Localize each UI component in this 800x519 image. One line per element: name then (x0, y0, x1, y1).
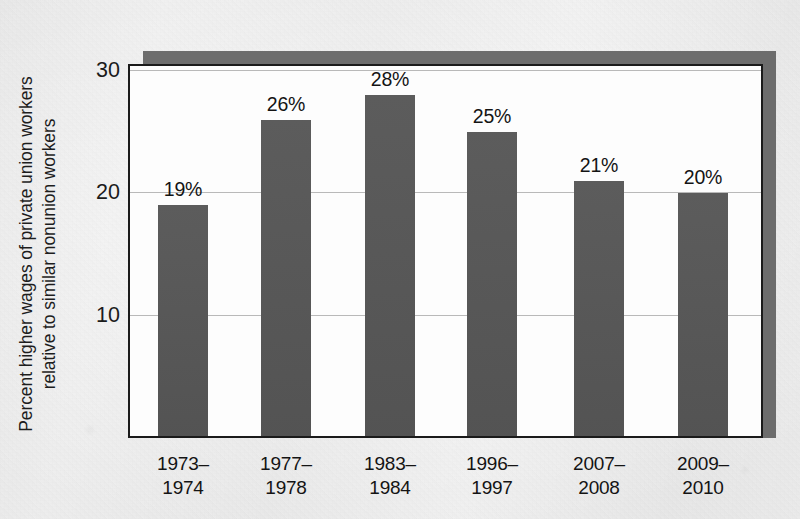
bar-2007–2008 (574, 181, 624, 436)
bar-1977–1978 (261, 120, 311, 437)
plot-area: 19%26%28%25%21%20% (128, 64, 763, 438)
bar-1983–1984 (365, 95, 415, 436)
gridline-30 (130, 70, 761, 71)
x-axis-tick-line-1: 1973– (133, 452, 233, 476)
bar-value-label-2009–2010: 20% (663, 166, 743, 189)
x-axis-tick-line-2: 2010 (653, 476, 753, 500)
bar-1973–1974 (158, 205, 208, 436)
bar-chart: Percent higher wages of private union wo… (0, 0, 800, 519)
y-axis-title: Percent higher wages of private union wo… (0, 34, 76, 474)
y-axis-tick-30: 30 (86, 57, 120, 82)
x-axis-tick-line-1: 1977– (236, 452, 336, 476)
bar-value-label-1996–1997: 25% (452, 105, 532, 128)
bar-2009–2010 (678, 193, 728, 436)
x-axis-tick-line-1: 2007– (549, 452, 649, 476)
x-axis-tick-line-2: 1997 (442, 476, 542, 500)
x-axis-tick-line-1: 2009– (653, 452, 753, 476)
x-axis-tick-line-1: 1983– (340, 452, 440, 476)
gridline-20 (130, 192, 761, 193)
y-axis-tick-20: 20 (86, 180, 120, 205)
x-axis-tick-line-2: 2008 (549, 476, 649, 500)
x-axis-tick-1973–1974: 1973–1974 (133, 452, 233, 500)
bar-value-label-2007–2008: 21% (559, 154, 639, 177)
x-axis-tick-2007–2008: 2007–2008 (549, 452, 649, 500)
gridline-10 (130, 315, 761, 316)
x-axis-tick-1996–1997: 1996–1997 (442, 452, 542, 500)
bar-1996–1997 (467, 132, 517, 436)
x-axis-tick-line-1: 1996– (442, 452, 542, 476)
y-axis-title-line-2: relative to similar nonunion workers (38, 119, 61, 390)
x-axis-tick-2009–2010: 2009–2010 (653, 452, 753, 500)
bar-value-label-1977–1978: 26% (246, 93, 326, 116)
bar-value-label-1973–1974: 19% (143, 178, 223, 201)
x-axis-tick-line-2: 1984 (340, 476, 440, 500)
y-axis-title-line-1: Percent higher wages of private union wo… (15, 76, 38, 431)
x-axis-tick-1983–1984: 1983–1984 (340, 452, 440, 500)
x-axis-tick-line-2: 1974 (133, 476, 233, 500)
x-axis-tick-line-2: 1978 (236, 476, 336, 500)
x-axis-tick-1977–1978: 1977–1978 (236, 452, 336, 500)
bar-value-label-1983–1984: 28% (350, 68, 430, 91)
y-axis-tick-10: 10 (86, 302, 120, 327)
